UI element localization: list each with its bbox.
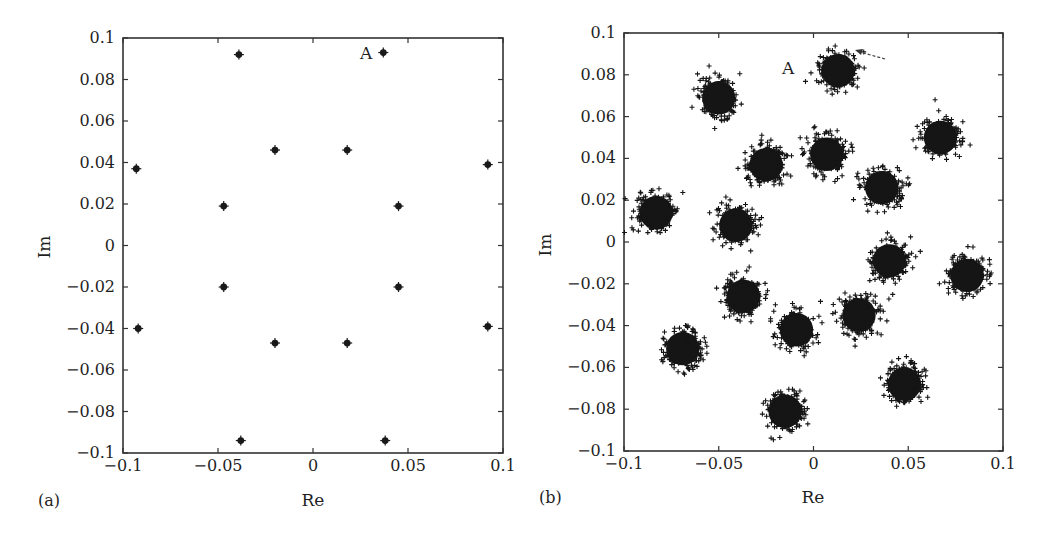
y-tick-label: 0.08 (79, 70, 115, 89)
y-axis-label-a: Im (34, 236, 54, 259)
scatter-panel-a: −0.1−0.0500.050.10.10.080.060.040.020−0.… (34, 28, 516, 510)
annotation-b-label: A (781, 58, 795, 78)
y-tick-label: 0.06 (580, 107, 616, 126)
x-tick-label: 0.05 (890, 454, 926, 473)
x-tick-label: 0.1 (990, 454, 1015, 473)
y-tick-label: −0.06 (567, 357, 616, 376)
y-tick-label: 0 (105, 236, 115, 255)
y-tick-label: −0.04 (66, 319, 115, 338)
y-tick-label: −0.04 (567, 316, 616, 335)
annotation-a-label: A (359, 43, 373, 63)
y-tick-label: 0.08 (580, 65, 616, 84)
panel-label-a: (a) (38, 491, 60, 510)
plot-area-b (624, 33, 1003, 451)
y-tick-label: −0.02 (66, 277, 115, 296)
y-tick-label: −0.1 (76, 443, 115, 462)
y-axis-label-b: Im (535, 234, 555, 257)
y-tick-label: 0.02 (580, 190, 616, 209)
x-axis-label-a: Re (302, 490, 325, 510)
x-tick-label: 0.05 (390, 456, 426, 475)
x-tick-label: −0.05 (193, 456, 242, 475)
y-tick-label: −0.08 (66, 402, 115, 421)
x-tick-label: −0.05 (694, 454, 743, 473)
y-tick-label: 0.06 (79, 111, 115, 130)
y-tick-label: −0.08 (567, 399, 616, 418)
panel-label-b: (b) (539, 488, 562, 507)
scatter-panel-b: −0.1−0.0500.050.10.10.080.060.040.020−0.… (535, 23, 1016, 507)
x-tick-label: 0.1 (490, 456, 515, 475)
y-tick-label: 0.04 (79, 153, 115, 172)
y-tick-label: 0.1 (90, 28, 115, 47)
y-tick-label: 0.1 (591, 23, 616, 42)
x-tick-label: 0 (308, 456, 318, 475)
y-tick-label: −0.1 (577, 441, 616, 460)
x-axis-label-b: Re (802, 487, 825, 507)
y-tick-label: 0 (606, 232, 616, 251)
y-tick-label: 0.02 (79, 194, 115, 213)
figure: −0.1−0.0500.050.10.10.080.060.040.020−0.… (0, 0, 1047, 539)
plot-area-a (123, 38, 503, 453)
y-tick-label: −0.02 (567, 274, 616, 293)
y-tick-label: 0.04 (580, 148, 616, 167)
y-tick-label: −0.06 (66, 360, 115, 379)
x-tick-label: 0 (808, 454, 818, 473)
